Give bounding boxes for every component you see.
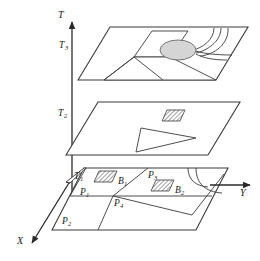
region-p3-label: P — [147, 170, 154, 180]
plane-t3: T 3 — [59, 27, 248, 80]
level-t3-sublabel: 3 — [64, 44, 69, 51]
plane-t1: T 1 B 1 B 2 P 1 P 2 P 3 P 4 — [52, 168, 228, 230]
figure-container: T X T 3 T 2 — [0, 0, 260, 261]
axis-x-label: X — [16, 235, 24, 246]
axis-t: T — [58, 9, 72, 200]
region-p4-label: P — [113, 198, 120, 208]
region-p1-sublabel: 1 — [86, 191, 89, 198]
level-t2-sublabel: 2 — [64, 112, 68, 119]
level-t1-sublabel: 1 — [80, 175, 83, 182]
plane-t2: T 2 — [58, 102, 240, 155]
block-b1-sublabel: 1 — [124, 180, 127, 187]
axis-t-label: T — [58, 9, 65, 20]
region-p1-label: P — [79, 187, 86, 197]
layered-plane-diagram: T X T 3 T 2 — [0, 0, 260, 261]
region-p2-label: P — [61, 216, 68, 226]
plane-t3-ellipse-feature — [160, 40, 196, 60]
axis-y-label: Y — [240, 187, 247, 198]
